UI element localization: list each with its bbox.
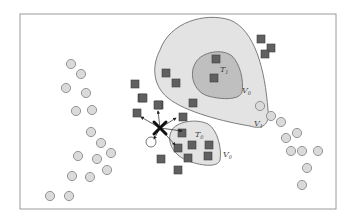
square-sample	[188, 141, 196, 149]
circle-sample	[302, 163, 311, 172]
square-sample	[133, 109, 141, 117]
square-sample	[184, 154, 192, 162]
square-sample	[257, 35, 265, 43]
circle-sample	[313, 146, 322, 155]
circle-sample	[286, 146, 295, 155]
circle-sample	[255, 101, 264, 110]
square-sample	[189, 99, 197, 107]
circle-sample	[292, 128, 301, 137]
circle-sample	[45, 191, 54, 200]
circle-sample	[64, 191, 73, 200]
square-sample	[157, 155, 165, 163]
circle-sample	[71, 106, 80, 115]
nearest-neighbor-diagram: T1 V0 V1 T0 V0	[0, 0, 353, 217]
square-sample	[178, 129, 186, 137]
square-sample	[139, 94, 147, 102]
square-sample	[210, 74, 218, 82]
circle-sample	[276, 117, 285, 126]
square-sample	[154, 101, 162, 109]
circle-sample	[87, 105, 96, 114]
circle-sample	[61, 83, 70, 92]
square-sample	[179, 113, 187, 121]
square-sample	[205, 141, 213, 149]
square-sample	[261, 50, 269, 58]
circle-sample	[281, 133, 290, 142]
circle-sample	[266, 111, 275, 120]
circle-sample	[81, 88, 90, 97]
square-sample	[174, 144, 182, 152]
circle-sample	[297, 146, 306, 155]
square-sample	[131, 80, 139, 88]
circle-sample	[85, 172, 94, 181]
circle-sample	[76, 69, 85, 78]
square-sample	[212, 55, 220, 63]
circle-sample	[67, 171, 76, 180]
circle-sample	[66, 59, 75, 68]
circle-sample	[297, 180, 306, 189]
circle-sample	[96, 138, 105, 147]
square-sample	[204, 152, 212, 160]
circle-sample	[86, 127, 95, 136]
circle-sample	[92, 154, 101, 163]
square-sample	[162, 69, 170, 77]
circle-sample	[102, 165, 111, 174]
square-sample	[174, 166, 182, 174]
circle-sample	[73, 151, 82, 160]
square-sample	[172, 79, 180, 87]
circle-sample	[106, 148, 115, 157]
